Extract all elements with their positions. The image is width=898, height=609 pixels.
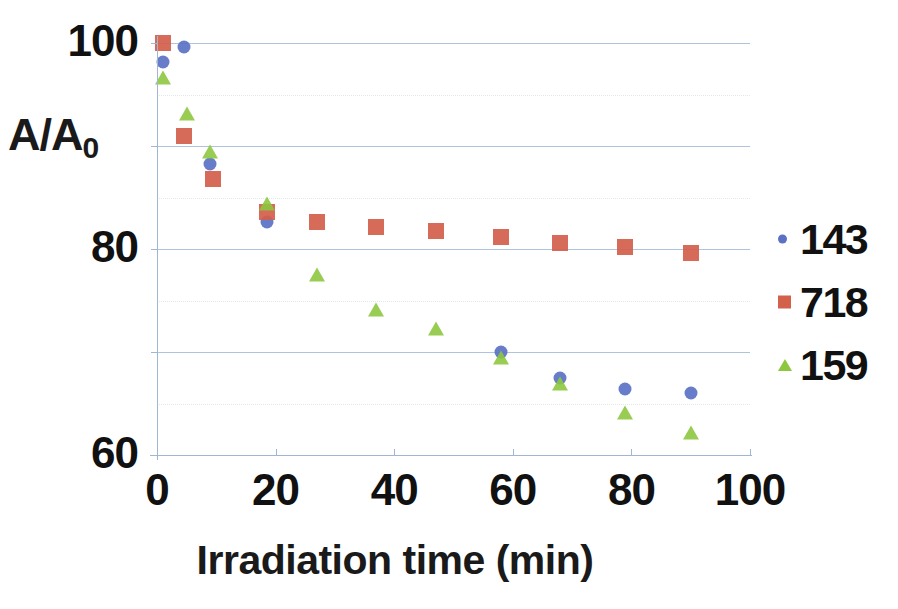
y-tick-label-80: 80 — [18, 225, 138, 269]
data-point-718 — [552, 235, 568, 251]
legend-triangle-marker-icon — [778, 359, 792, 371]
legend-label-143: 143 — [800, 217, 867, 260]
data-point-143 — [684, 387, 697, 400]
data-point-159 — [428, 322, 444, 336]
x-tick-label-60: 60 — [453, 468, 573, 512]
gridline-major — [157, 249, 750, 250]
data-point-159 — [259, 196, 275, 210]
x-tick-mark — [513, 449, 514, 456]
x-tick-mark — [631, 449, 632, 456]
data-point-718 — [309, 214, 325, 230]
x-tick-mark — [276, 449, 277, 456]
x-tick-label-100: 100 — [690, 468, 810, 512]
x-axis-title: Irradiation time (min) — [0, 540, 790, 581]
gridline-minor — [157, 404, 750, 405]
legend-item-143[interactable]: 143 — [778, 207, 898, 270]
y-axis-line — [157, 36, 158, 460]
x-tick-mark — [394, 449, 395, 456]
data-point-159 — [552, 377, 568, 391]
data-point-718 — [205, 171, 221, 187]
data-point-718 — [493, 229, 509, 245]
data-point-159 — [202, 145, 218, 159]
gridline-minor — [157, 198, 750, 199]
legend-item-718[interactable]: 718 — [778, 270, 898, 333]
legend-circle-marker-icon — [778, 234, 787, 243]
gridline-minor — [157, 95, 750, 96]
data-point-159 — [309, 267, 325, 281]
y-tick-label-100: 100 — [18, 19, 138, 63]
y-tick-mark — [151, 352, 158, 353]
y-tick-mark — [151, 249, 158, 250]
data-point-718 — [683, 245, 699, 261]
data-point-159 — [368, 302, 384, 316]
legend-square-marker-icon — [778, 295, 791, 308]
legend-label-159: 159 — [800, 343, 867, 386]
data-point-159 — [617, 405, 633, 419]
legend-label-718: 718 — [800, 280, 867, 323]
x-axis-line — [150, 455, 752, 456]
y-tick-mark — [151, 146, 158, 147]
data-point-159 — [179, 107, 195, 121]
legend-item-159[interactable]: 159 — [778, 333, 898, 396]
x-tick-label-0: 0 — [97, 468, 217, 512]
data-point-143 — [156, 55, 169, 68]
data-point-143 — [204, 157, 217, 170]
data-point-718 — [176, 128, 192, 144]
plot-area — [157, 43, 750, 455]
data-point-718 — [368, 219, 384, 235]
y-axis-title-subscript: 0 — [83, 131, 99, 164]
data-point-718 — [617, 239, 633, 255]
data-point-143 — [619, 383, 632, 396]
data-point-159 — [683, 426, 699, 440]
data-point-143 — [177, 41, 190, 54]
data-point-159 — [493, 351, 509, 365]
data-point-718 — [428, 223, 444, 239]
gridline-minor — [157, 301, 750, 302]
x-tick-label-20: 20 — [216, 468, 336, 512]
gridline-major — [157, 352, 750, 353]
x-tick-mark — [750, 449, 751, 456]
chart-legend: 143718159 — [778, 207, 898, 396]
gridline-major — [157, 146, 750, 147]
x-tick-label-80: 80 — [571, 468, 691, 512]
y-axis-title: A/A0 — [8, 112, 158, 157]
y-axis-title-main: A/A — [8, 109, 83, 160]
gridline-major — [157, 43, 750, 44]
x-tick-mark — [157, 449, 158, 456]
y-tick-mark — [151, 43, 158, 44]
chart-figure: A/A0 1008060020406080100 Irradiation tim… — [0, 0, 898, 609]
x-tick-label-40: 40 — [334, 468, 454, 512]
